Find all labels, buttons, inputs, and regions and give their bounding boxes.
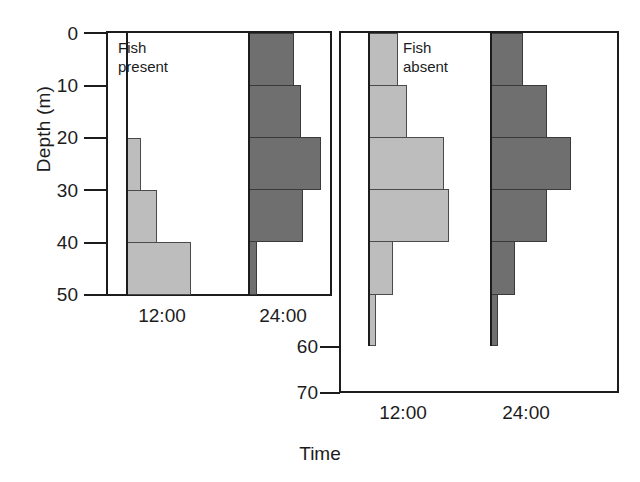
bar-right-1200-30-40 xyxy=(369,189,449,242)
y-tickmark-20 xyxy=(84,137,106,139)
y-tickmark-70 xyxy=(320,392,340,394)
y-tickmark-60 xyxy=(320,346,340,348)
panel-title-fish-absent: Fish absent xyxy=(403,38,448,76)
y-tickmark-10 xyxy=(84,85,106,87)
y-tick-70: 70 xyxy=(272,383,318,402)
bar-left-2400-10-20 xyxy=(249,85,301,138)
y-tickmark-30 xyxy=(84,189,106,191)
y-tickmark-50 xyxy=(84,294,106,296)
bar-left-1200-40-50 xyxy=(127,242,191,295)
bar-right-1200-20-30 xyxy=(369,137,444,190)
bar-right-1200-40-50 xyxy=(369,241,393,295)
baseline-left-2400 xyxy=(248,33,250,295)
y-tick-10: 10 xyxy=(32,76,78,95)
bar-right-2400-50-59 xyxy=(491,294,498,346)
y-tickmark-40 xyxy=(84,242,106,244)
bar-right-1200-10-20 xyxy=(369,85,407,138)
baseline-right-2400 xyxy=(490,33,492,346)
bar-left-2400-40-50 xyxy=(249,241,257,295)
bar-left-2400-0-10 xyxy=(249,33,294,86)
y-tick-0: 0 xyxy=(32,24,78,43)
baseline-right-1200 xyxy=(368,33,370,346)
bar-right-2400-20-30 xyxy=(491,137,571,190)
bar-right-2400-30-40 xyxy=(491,189,547,242)
x-tick-right-2400: 24:00 xyxy=(481,403,571,422)
y-tick-60: 60 xyxy=(272,337,318,356)
figure-canvas: Depth (m) 0 10 20 30 40 50 60 70 Fish pr… xyxy=(0,0,640,482)
bar-right-2400-10-20 xyxy=(491,85,547,138)
bar-right-1200-50-59 xyxy=(369,294,376,346)
bar-right-1200-0-10 xyxy=(369,33,398,86)
x-tick-left-1200: 12:00 xyxy=(117,306,207,325)
bar-right-2400-0-10 xyxy=(491,33,523,86)
x-tick-right-1200: 12:00 xyxy=(358,403,448,422)
y-tick-20: 20 xyxy=(32,128,78,147)
y-tick-30: 30 xyxy=(32,181,78,200)
bar-right-2400-40-50 xyxy=(491,241,515,295)
y-tickmark-0 xyxy=(84,32,106,34)
y-tick-40: 40 xyxy=(32,233,78,252)
panel-title-fish-present: Fish present xyxy=(118,38,168,76)
x-tick-left-2400: 24:00 xyxy=(238,306,328,325)
y-tick-50: 50 xyxy=(32,285,78,304)
bar-left-2400-30-40 xyxy=(249,189,303,242)
bar-left-1200-20-30 xyxy=(127,138,141,191)
x-axis-label: Time xyxy=(0,443,640,465)
bar-left-2400-20-30 xyxy=(249,137,321,190)
bar-left-1200-30-40 xyxy=(127,190,157,243)
